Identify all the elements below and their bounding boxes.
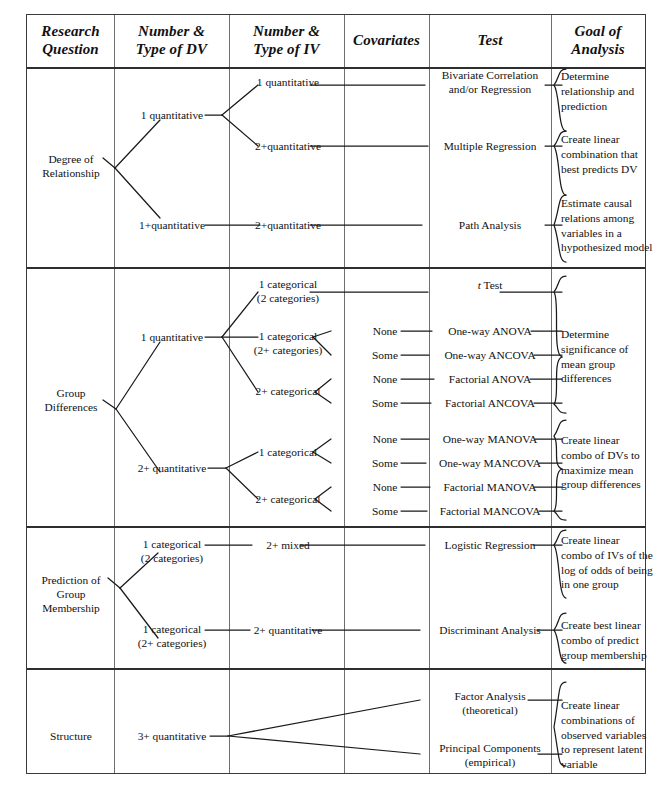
column-divider-4 — [429, 15, 430, 773]
label-line-2: Group — [56, 588, 85, 600]
header-research-question: Research Question — [27, 15, 114, 67]
goal-create-linear-combo-dvs: Create linear combo of DVs to maximize m… — [561, 433, 653, 492]
label-line-2: Differences — [45, 401, 98, 413]
covariate-node-some-1: Some — [372, 349, 398, 363]
test-node-one-way-anova: One-way ANOVA — [448, 325, 532, 339]
column-divider-3 — [344, 15, 345, 773]
header-number-type-dv: Number & Type of DV — [114, 15, 229, 67]
iv-node-1-categorical-b: 1 categorical — [259, 446, 318, 460]
test-node-logistic-regression: Logistic Regression — [445, 539, 536, 553]
covariate-node-none-4: None — [373, 481, 398, 495]
dv-node-3plus-quantitative: 3+ quantitative — [138, 730, 207, 744]
header-line-2: Question — [42, 41, 99, 57]
label-line-2: Relationship — [42, 167, 100, 179]
header-line-1: Number & — [138, 23, 205, 39]
test-node-factorial-ancova: Factorial ANCOVA — [445, 397, 535, 411]
column-divider-2 — [229, 15, 230, 773]
test-node-one-way-manova: One-way MANOVA — [443, 433, 537, 447]
goal-create-linear-combinations: Create linear combinations of observed v… — [561, 698, 653, 772]
iv-node-1-categorical-2plus: 1 categorical (2+ categories) — [254, 330, 323, 358]
goal-determine-significance: Determine significance of mean group dif… — [561, 327, 653, 386]
iv-node-2plus-mixed: 2+ mixed — [266, 539, 309, 553]
test-node-principal-components: Principal Components (empirical) — [439, 742, 541, 770]
test-node-factor-analysis: Factor Analysis (theoretical) — [454, 690, 525, 718]
research-question-prediction-of-group-membership: Prediction of Group Membership — [41, 574, 100, 616]
goal-determine-relationship: Determine relationship and prediction — [561, 69, 653, 113]
header-line-1: Research — [41, 23, 99, 39]
dv-node-2plus-quantitative: 2+ quantitative — [138, 462, 207, 476]
section-divider-3 — [27, 668, 645, 670]
research-question-group-differences: Group Differences — [45, 387, 98, 415]
iv-node-2plus-categorical-a: 2+ categorical — [256, 385, 321, 399]
header-line-2: Type of IV — [253, 41, 319, 57]
covariate-node-none-1: None — [373, 325, 398, 339]
label-line-1: Group — [56, 387, 85, 399]
decision-table: Research Question Number & Type of DV Nu… — [26, 14, 646, 774]
goal-create-best-linear-combo: Create best linear combo of predict grou… — [561, 618, 653, 662]
iv-node-2plus-quantitative-b: 2+quantitative — [255, 219, 321, 233]
test-node-factorial-mancova: Factorial MANCOVA — [440, 505, 541, 519]
statistical-decision-tree-page: Research Question Number & Type of DV Nu… — [0, 0, 671, 786]
research-question-degree-of-relationship: Degree of Relationship — [42, 153, 100, 181]
test-node-factorial-anova: Factorial ANOVA — [449, 373, 531, 387]
test-node-one-way-mancova: One-way MANCOVA — [439, 457, 541, 471]
column-divider-1 — [114, 15, 115, 773]
dv-node-1-categorical-2: 1 categorical (2 categories) — [141, 538, 203, 566]
iv-node-2plus-quantitative: 2+ quantitative — [254, 624, 323, 638]
iv-node-2plus-categorical-b: 2+ categorical — [256, 493, 321, 507]
label-line-3: Membership — [42, 602, 100, 614]
covariate-node-none-3: None — [373, 433, 398, 447]
iv-node-1-quantitative: 1 quantitative — [257, 76, 319, 90]
column-divider-5 — [551, 15, 552, 773]
test-node-path-analysis: Path Analysis — [459, 219, 521, 233]
test-node-t-test: t Test — [478, 279, 503, 293]
iv-node-2plus-quantitative-a: 2+quantitative — [255, 140, 321, 154]
header-line-1: Test — [478, 32, 503, 48]
dv-node-1-quantitative: 1 quantitative — [141, 109, 203, 123]
section-divider-2 — [27, 526, 645, 528]
test-node-multiple-regression: Multiple Regression — [444, 140, 537, 154]
dv-node-1-categorical-2plus: 1 categorical (2+ categories) — [138, 623, 207, 651]
header-line-1: Number & — [253, 23, 320, 39]
header-test: Test — [429, 15, 551, 67]
test-node-bivariate-correlation: Bivariate Correlation and/or Regression — [442, 69, 538, 97]
dv-node-1-quantitative: 1 quantitative — [141, 331, 203, 345]
header-line-2: Type of DV — [136, 41, 207, 57]
test-node-discriminant-analysis: Discriminant Analysis — [439, 624, 541, 638]
dv-node-1plus-quantitative: 1+quantitative — [139, 219, 205, 233]
label-line-1: Degree of — [48, 153, 93, 165]
header-divider — [27, 67, 645, 69]
goal-create-linear-combination: Create linear combination that best pred… — [561, 132, 653, 176]
covariate-node-some-3: Some — [372, 457, 398, 471]
label-line-1: Prediction of — [41, 574, 100, 586]
header-line-1: Covariates — [353, 32, 420, 48]
header-line-2: Analysis — [571, 41, 624, 57]
covariate-node-some-2: Some — [372, 397, 398, 411]
header-number-type-iv: Number & Type of IV — [229, 15, 344, 67]
header-line-1: Goal of — [575, 23, 622, 39]
test-node-one-way-ancova: One-way ANCOVA — [444, 349, 535, 363]
iv-node-1-categorical-2: 1 categorical (2 categories) — [257, 278, 319, 306]
goal-create-linear-combo-ivs: Create linear combo of IVs of the log of… — [561, 533, 653, 592]
test-node-factorial-manova: Factorial MANOVA — [443, 481, 536, 495]
covariate-node-none-2: None — [373, 373, 398, 387]
goal-estimate-causal-relations: Estimate causal relations among variable… — [561, 196, 653, 255]
covariate-node-some-4: Some — [372, 505, 398, 519]
header-covariates: Covariates — [344, 15, 429, 67]
research-question-structure: Structure — [50, 730, 92, 744]
section-divider-1 — [27, 267, 645, 269]
header-goal-of-analysis: Goal of Analysis — [551, 15, 645, 67]
